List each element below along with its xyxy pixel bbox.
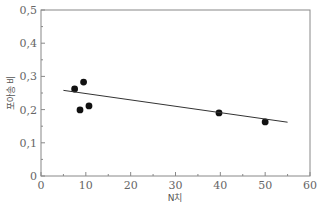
y-axis-label: 포아송 비 (6, 76, 16, 111)
y-tick-label: 0,5 (20, 4, 38, 17)
y-tick-label: 0,2 (20, 104, 38, 117)
y-tick-label: 0,3 (20, 70, 38, 83)
y-tick-label: 0 (30, 170, 37, 183)
data-point (80, 79, 87, 86)
x-tick-label: 20 (124, 179, 138, 192)
x-tick-label: 40 (213, 179, 227, 192)
x-tick-label: 60 (303, 179, 317, 192)
data-point (86, 103, 93, 110)
scatter-chart: 010203040506000,10,20,30,40,5 N치 포아송 비 (0, 0, 320, 217)
x-tick-label: 10 (79, 179, 93, 192)
y-tick-label: 0,4 (20, 37, 38, 50)
x-tick-label: 0 (38, 179, 45, 192)
plot-area (63, 79, 287, 126)
x-axis-label: N치 (168, 192, 183, 203)
axis-ticks: 010203040506000,10,20,30,40,5 (20, 4, 318, 192)
x-tick-label: 50 (258, 179, 272, 192)
x-tick-label: 30 (169, 179, 183, 192)
data-point (77, 107, 84, 114)
y-tick-label: 0,1 (20, 137, 38, 150)
trend-line (63, 90, 287, 122)
